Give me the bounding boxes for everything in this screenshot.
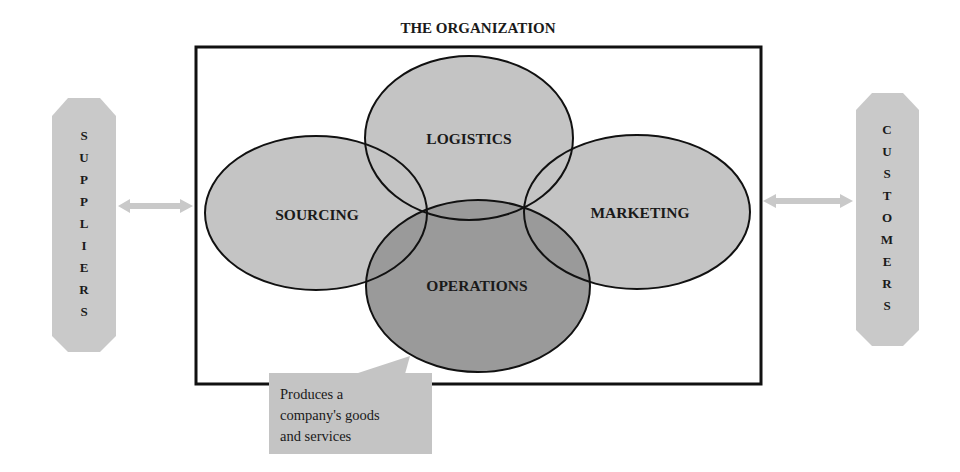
- svg-text:R: R: [882, 276, 892, 291]
- svg-text:P: P: [80, 172, 88, 187]
- svg-text:L: L: [80, 216, 89, 231]
- svg-text:S: S: [80, 304, 87, 319]
- svg-text:U: U: [882, 144, 892, 159]
- svg-text:E: E: [883, 254, 892, 269]
- svg-text:O: O: [882, 210, 892, 225]
- svg-text:T: T: [883, 188, 892, 203]
- customers-letters: C U S T O M E R S: [881, 122, 893, 313]
- operations-label: OPERATIONS: [426, 277, 527, 294]
- svg-text:I: I: [81, 238, 86, 253]
- callout-line: and services: [280, 426, 430, 447]
- customers-double-arrow: [763, 194, 853, 208]
- svg-text:M: M: [881, 232, 893, 247]
- svg-text:S: S: [80, 128, 87, 143]
- svg-text:S: S: [883, 298, 890, 313]
- svg-text:U: U: [79, 150, 89, 165]
- suppliers-double-arrow: [118, 199, 193, 213]
- svg-text:P: P: [80, 194, 88, 209]
- svg-text:C: C: [882, 122, 891, 137]
- organization-diagram: THE ORGANIZATION LOGISTICS SOURCING MARK…: [0, 0, 960, 472]
- marketing-label: MARKETING: [590, 204, 689, 221]
- svg-text:E: E: [80, 260, 89, 275]
- diagram-title: THE ORGANIZATION: [400, 20, 555, 36]
- suppliers-letters: S U P P L I E R S: [79, 128, 89, 319]
- operations-callout: Produces a company's goods and services: [280, 384, 430, 447]
- sourcing-label: SOURCING: [275, 206, 359, 223]
- callout-line: company's goods: [280, 405, 430, 426]
- logistics-label: LOGISTICS: [426, 130, 511, 147]
- svg-text:S: S: [883, 166, 890, 181]
- callout-line: Produces a: [280, 384, 430, 405]
- svg-text:R: R: [79, 282, 89, 297]
